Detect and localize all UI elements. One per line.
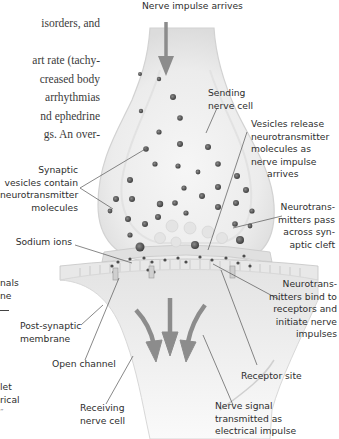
label-nerve-impulse-arrives: Nerve impulse arrives — [142, 0, 243, 13]
label-sending-nerve-cell: Sending nerve cell — [208, 87, 253, 112]
label-neurotransmitters-pass: Neurotrans- mitters pass across syn- apt… — [262, 201, 335, 251]
label-neurotransmitters-bind: Neurotrans- mitters bind to receptors an… — [255, 278, 337, 341]
label-receiving-nerve-cell: Receiving nerve cell — [80, 402, 125, 427]
label-sodium-ions: Sodium ions — [0, 236, 72, 249]
label-synaptic-vesicles: Synaptic vesicles contain neurotransmitt… — [0, 164, 78, 214]
label-receptor-site: Receptor site — [241, 370, 302, 383]
label-post-synaptic-membrane: Post-synaptic membrane — [20, 320, 81, 345]
label-open-channel: Open channel — [52, 358, 116, 371]
label-nerve-signal: Nerve signal transmitted as electrical i… — [215, 400, 296, 438]
label-vesicles-release: Vesicles release neurotransmitter molecu… — [251, 118, 329, 181]
